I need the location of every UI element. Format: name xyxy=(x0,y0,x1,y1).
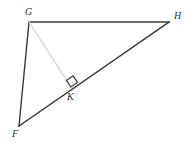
segment-gf xyxy=(19,22,29,126)
vertex-label-h: H xyxy=(174,11,181,21)
vertex-label-k: K xyxy=(67,92,74,102)
segment-fh xyxy=(19,22,169,126)
vertex-label-g: G xyxy=(25,7,32,17)
geometry-figure: G H F K xyxy=(0,0,196,150)
segment-gk-altitude xyxy=(29,22,71,87)
vertex-label-f: F xyxy=(12,129,18,139)
triangle-diagram-canvas xyxy=(0,0,196,150)
